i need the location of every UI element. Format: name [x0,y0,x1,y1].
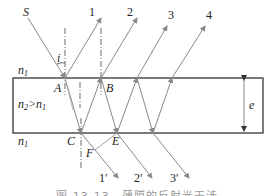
reflected-ray-3 [137,26,167,78]
label-ray-2-prime: 2′ [134,171,143,185]
label-ray-1-prime: 1′ [99,171,108,185]
label-ray-2: 2 [127,5,133,19]
reflected-ray-E-up [117,78,137,133]
label-ray-1: 1 [89,5,95,19]
film-layer [13,78,263,133]
reflected-ray-2 [101,18,137,78]
figure-caption: 图 13-13 薄膜的反射光干涉 [0,187,274,196]
reflected-ray-4 [172,26,205,78]
label-i: i [57,51,60,65]
label-ray-3-prime: 3′ [170,171,179,185]
label-n2-gt-n1: n2>n1 [18,97,46,112]
label-ray-4: 4 [206,8,212,22]
label-e: e [249,98,255,112]
thin-film-interference-diagram: S i A B C E F e n1 n2>n1 n1 1 2 3 4 1′ 2… [0,0,274,196]
label-ray-3: 3 [168,8,174,22]
label-n1-top: n1 [18,63,28,78]
incident-ray [28,18,65,78]
inner-ray-A [65,78,73,110]
label-n1-bottom: n1 [18,134,28,149]
label-B: B [106,81,114,95]
label-A: A [53,81,62,95]
refracted-ray-down-2 [137,78,153,133]
reflected-ray-up-3 [153,78,172,133]
label-F: F [85,146,94,160]
label-E: E [111,134,120,148]
reflected-ray-1 [65,18,101,78]
label-C: C [67,134,76,148]
label-S: S [23,5,29,19]
reflected-ray-C-B [81,78,101,133]
